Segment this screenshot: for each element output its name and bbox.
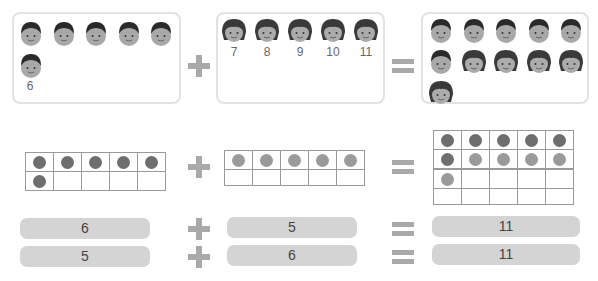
boy-face-icon [461, 17, 487, 45]
counter-dot [441, 134, 454, 147]
plus-icon [188, 218, 210, 240]
ten-frame-cell [434, 189, 462, 205]
ten-frame-cell [253, 170, 281, 186]
ten-frame-cell [253, 151, 281, 170]
boy-face-icon [428, 17, 454, 45]
plus-icon [188, 156, 210, 178]
girl-face-icon [221, 17, 247, 45]
ten-frame-cell [309, 151, 337, 170]
equation-1-addend-a: 6 [20, 218, 150, 239]
girl-face-icon [320, 17, 346, 45]
ten-frame-cell [518, 150, 546, 169]
girl-face-icon [287, 17, 313, 45]
girl-face-icon [493, 48, 519, 76]
girl-face-icon [428, 79, 454, 107]
ten-frame-cell [490, 189, 518, 205]
girl-face-icon [353, 17, 379, 45]
ten-frame-cell [490, 170, 518, 189]
ten-frame-cell [138, 172, 166, 191]
girl-face-icon [526, 48, 552, 76]
equation-2-sum: 11 [432, 244, 580, 265]
ten-frame-cell [54, 172, 82, 191]
equals-icon [392, 246, 414, 268]
equation-2-addend-a: 5 [20, 246, 150, 267]
boy-face-icon [493, 17, 519, 45]
counter-dot [441, 173, 454, 186]
counter-dot [469, 134, 482, 147]
boy-face-icon [51, 20, 77, 48]
counter-dot [117, 156, 130, 169]
ten-frame-cell [546, 170, 574, 189]
girl-face-icon [558, 48, 584, 76]
boy-face-icon [526, 17, 552, 45]
girl-count-label: 7 [221, 45, 247, 59]
ten-frame-cell [82, 172, 110, 191]
counter-dot [525, 153, 538, 166]
ten-frame-cell [490, 150, 518, 169]
counter-dot [33, 175, 46, 188]
ten-frame-cell [462, 150, 490, 169]
equals-icon [392, 218, 414, 240]
ten-frame-cell [518, 189, 546, 205]
boy-face-icon [428, 48, 454, 76]
counter-dot [316, 154, 329, 167]
counter-dot [497, 153, 510, 166]
ten-frame-cell [281, 151, 309, 170]
counter-dot [525, 134, 538, 147]
counter-dot [232, 154, 245, 167]
ten-frame-cell [462, 189, 490, 205]
girl-face-icon [461, 48, 487, 76]
ten-frame-cell [518, 131, 546, 150]
counter-dot [89, 156, 102, 169]
boy-face-icon [148, 20, 174, 48]
equals-icon [392, 55, 414, 77]
ten-frame-cell [518, 170, 546, 189]
counter-dot [145, 156, 158, 169]
counter-dot [33, 156, 46, 169]
ten-frame-cell [110, 153, 138, 172]
counter-dot [344, 154, 357, 167]
ten-frame-cell [225, 151, 253, 170]
ten-frame-cell [462, 131, 490, 150]
ten-frame-cell [546, 131, 574, 150]
ten-frame-result-second [433, 169, 574, 205]
boy-face-icon [558, 17, 584, 45]
ten-frame-cell [138, 153, 166, 172]
ten-frame-cell [281, 170, 309, 186]
boy-face-icon [116, 20, 142, 48]
ten-frame-cell [434, 170, 462, 189]
counter-dot [553, 134, 566, 147]
counter-dot [260, 154, 273, 167]
counter-dot [288, 154, 301, 167]
ten-frame-cell [26, 172, 54, 191]
counter-dot [469, 153, 482, 166]
ten-frame-cell [462, 170, 490, 189]
equation-1-sum: 11 [432, 216, 580, 237]
counter-dot [497, 134, 510, 147]
girl-face-icon [254, 17, 280, 45]
plus-icon [188, 246, 210, 268]
ten-frame-cell [54, 153, 82, 172]
girl-count-label: 9 [287, 45, 313, 59]
ten-frame-cell [337, 151, 365, 170]
ten-frame-second-addend [224, 150, 365, 186]
girl-count-label: 10 [320, 45, 346, 59]
ten-frame-cell [26, 153, 54, 172]
ten-frame-cell [434, 131, 462, 150]
boy-face-icon [18, 52, 44, 80]
ten-frame-cell [546, 189, 574, 205]
ten-frame-cell [490, 131, 518, 150]
counter-dot [553, 153, 566, 166]
ten-frame-cell [337, 170, 365, 186]
boys-count-label: 6 [17, 79, 43, 93]
counter-dot [61, 156, 74, 169]
girl-count-label: 11 [353, 45, 379, 59]
ten-frame-cell [434, 150, 462, 169]
equation-2-addend-b: 6 [227, 245, 357, 266]
equation-1-addend-b: 5 [227, 217, 357, 238]
ten-frame-cell [110, 172, 138, 191]
ten-frame-result-first [433, 130, 574, 169]
boy-face-icon [18, 20, 44, 48]
ten-frame-cell [82, 153, 110, 172]
equals-icon [392, 156, 414, 178]
